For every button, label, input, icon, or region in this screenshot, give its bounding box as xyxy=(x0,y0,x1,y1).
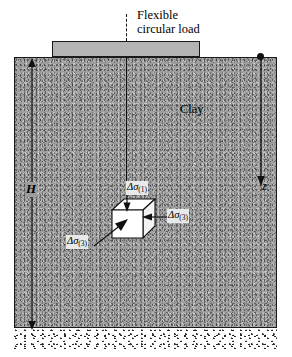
stress-sigma3-front-symbol: Δσ xyxy=(67,235,78,246)
load-centerline xyxy=(126,57,127,181)
stress-sigma3-right-arrow xyxy=(142,210,168,224)
stress-sigma1-symbol: Δσ xyxy=(127,181,138,192)
diagram-canvas: Flexible circular load Clay H z Δσ(1) xyxy=(0,0,292,357)
stress-sigma3-front-label: Δσ(3) xyxy=(66,235,88,249)
stress-sigma1-label: Δσ(1) xyxy=(126,181,148,195)
depth-h-label: H xyxy=(25,182,37,197)
stress-sigma3-front-arrow xyxy=(92,214,132,248)
stress-sigma3-right-symbol: Δσ xyxy=(168,209,179,220)
depth-z-arrow xyxy=(253,58,269,186)
clay-label: Clay xyxy=(180,102,204,116)
flexible-circular-load-label: Flexible circular load xyxy=(137,8,200,36)
sand-layer xyxy=(14,328,277,349)
stress-sigma3-front-subscript: (3) xyxy=(78,239,87,248)
flexible-circular-load-bar xyxy=(52,41,200,57)
stress-sigma3-right-subscript: (3) xyxy=(179,213,188,222)
load-label-leader-line xyxy=(126,14,127,41)
load-label-line-1: Flexible xyxy=(137,8,200,22)
stress-sigma3-right-label: Δσ(3) xyxy=(167,209,189,223)
stress-sigma1-subscript: (1) xyxy=(138,185,147,194)
stress-sigma1-arrow xyxy=(120,194,134,212)
depth-z-label: z xyxy=(262,179,267,193)
load-label-line-2: circular load xyxy=(137,22,200,36)
